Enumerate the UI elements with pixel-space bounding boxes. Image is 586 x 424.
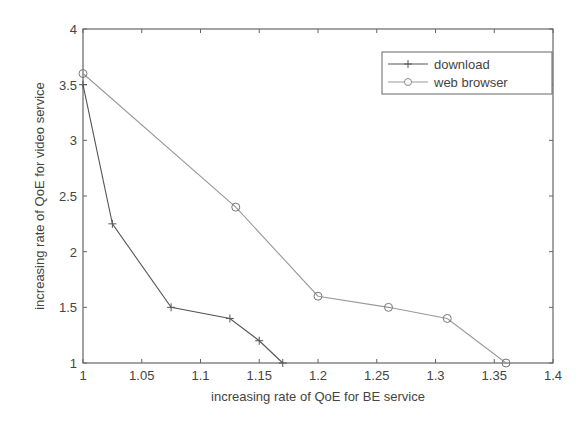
legend-label-web-browser: web browser <box>433 75 508 90</box>
y-tick-label: 3.5 <box>59 78 77 93</box>
x-tick-label: 1 <box>79 368 86 383</box>
y-tick-label: 2.5 <box>59 189 77 204</box>
legend: download web browser <box>382 52 552 94</box>
x-tick-label: 1.35 <box>482 368 507 383</box>
x-tick-label: 1.25 <box>364 368 389 383</box>
legend-label-download: download <box>434 57 490 72</box>
y-tick-label: 2 <box>70 245 77 260</box>
x-tick-label: 1.05 <box>129 368 154 383</box>
x-tick-label: 1.1 <box>191 368 209 383</box>
x-tick-label: 1.4 <box>544 368 562 383</box>
y-tick-label: 1.5 <box>59 300 77 315</box>
x-tick-label: 1.2 <box>309 368 327 383</box>
x-axis-label: increasing rate of QoE for BE service <box>211 389 425 404</box>
circle-marker-icon <box>405 79 412 86</box>
y-tick-label: 4 <box>70 22 77 37</box>
y-tick-label: 3 <box>70 133 77 148</box>
y-tick-label: 1 <box>70 356 77 371</box>
x-tick-label: 1.15 <box>247 368 272 383</box>
x-tick-label: 1.3 <box>426 368 444 383</box>
line-chart: 11.051.11.151.21.251.31.351.4 11.522.533… <box>0 0 586 424</box>
y-axis-label: increasing rate of QoE for video service <box>32 82 47 310</box>
